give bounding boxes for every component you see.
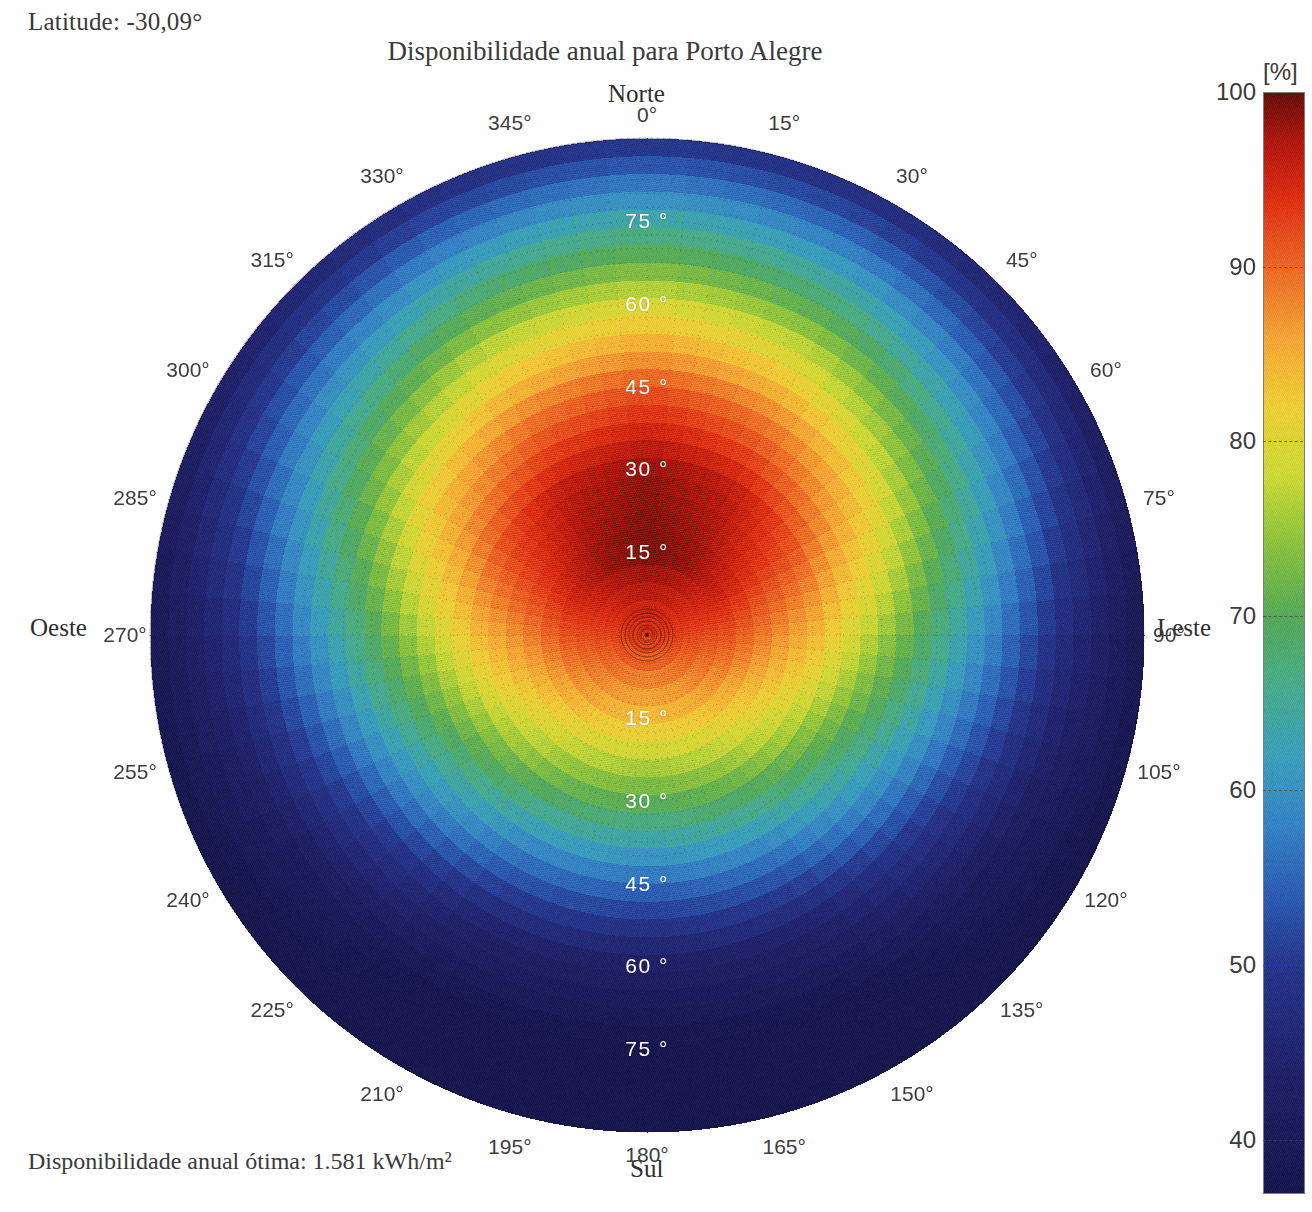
azimuth-tick-60: 60° (1090, 358, 1122, 382)
colorbar-tick-label-60: 60 (1194, 776, 1256, 804)
colorbar-tick-mark-80 (1263, 441, 1303, 442)
azimuth-tick-165: 165° (762, 1135, 805, 1159)
azimuth-tick-240: 240° (166, 888, 209, 912)
azimuth-tick-300: 300° (166, 358, 209, 382)
azimuth-tick-285: 285° (113, 486, 156, 510)
polar-heatmap-disc (147, 135, 1147, 1135)
azimuth-tick-255: 255° (113, 760, 156, 784)
azimuth-tick-270: 270° (103, 623, 146, 647)
colorbar-tick-label-90: 90 (1194, 253, 1256, 281)
colorbar-tick-mark-90 (1263, 267, 1303, 268)
colorbar-tick-label-50: 50 (1194, 951, 1256, 979)
colorbar-tick-label-100: 100 (1194, 78, 1256, 106)
colorbar: [%] 100908070605040 (1190, 50, 1312, 1210)
page-title: Disponibilidade anual para Porto Alegre (0, 36, 1210, 67)
colorbar-tick-label-70: 70 (1194, 602, 1256, 630)
polar-chart: 0°15°30°45°60°75°90°105°120°135°150°165°… (147, 135, 1147, 1135)
colorbar-unit-label: [%] (1263, 58, 1298, 86)
colorbar-tick-mark-60 (1263, 790, 1303, 791)
colorbar-tick-mark-40 (1263, 1140, 1303, 1141)
latitude-label: Latitude: -30,09° (28, 8, 202, 36)
azimuth-tick-120: 120° (1084, 888, 1127, 912)
colorbar-tick-label-80: 80 (1194, 427, 1256, 455)
azimuth-tick-90: 90° (1153, 623, 1185, 647)
colorbar-tick-label-40: 40 (1194, 1126, 1256, 1154)
azimuth-tick-195: 195° (488, 1135, 531, 1159)
azimuth-tick-330: 330° (360, 164, 403, 188)
azimuth-tick-180: 180° (625, 1143, 668, 1167)
colorbar-tick-mark-50 (1263, 965, 1303, 966)
azimuth-tick-345: 345° (488, 111, 531, 135)
azimuth-tick-30: 30° (896, 164, 928, 188)
optimal-availability-note: Disponibilidade anual ótima: 1.581 kWh/m… (28, 1148, 452, 1175)
azimuth-tick-105: 105° (1137, 760, 1180, 784)
azimuth-tick-210: 210° (360, 1082, 403, 1106)
azimuth-tick-225: 225° (251, 998, 294, 1022)
azimuth-tick-45: 45° (1006, 248, 1038, 272)
azimuth-tick-75: 75° (1143, 486, 1175, 510)
colorbar-gradient (1263, 92, 1305, 1194)
cardinal-label-west: Oeste (30, 614, 87, 642)
azimuth-tick-0: 0° (637, 103, 657, 127)
azimuth-tick-150: 150° (890, 1082, 933, 1106)
azimuth-tick-135: 135° (1000, 998, 1043, 1022)
colorbar-tick-mark-70 (1263, 616, 1303, 617)
azimuth-tick-315: 315° (251, 248, 294, 272)
azimuth-tick-15: 15° (768, 111, 800, 135)
